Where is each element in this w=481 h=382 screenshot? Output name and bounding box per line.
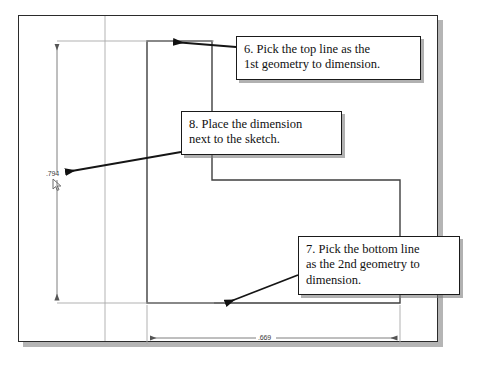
arrow-to-bottom-line xyxy=(226,275,298,303)
vertical-dimension-value[interactable]: .794 xyxy=(46,170,59,177)
horizontal-dimension[interactable] xyxy=(147,305,400,344)
mouse-cursor-icon xyxy=(52,178,64,192)
horizontal-dimension-value[interactable]: .669 xyxy=(258,334,271,341)
callout-step-7: 7. Pick the bottom line as the 2nd geome… xyxy=(298,236,460,295)
arrow-to-dimension xyxy=(66,152,181,172)
callout-step-6: 6. Pick the top line as the 1st geometry… xyxy=(236,36,421,80)
screenshot-root: .794 .669 6. Pick the top line as the 1s… xyxy=(0,0,481,382)
arrow-to-top-line xyxy=(174,42,236,47)
callout-step-8: 8. Place the dimension next to the sketc… xyxy=(181,111,342,155)
vertical-dimension[interactable] xyxy=(57,41,214,303)
callout-leader-arrows xyxy=(66,42,298,303)
